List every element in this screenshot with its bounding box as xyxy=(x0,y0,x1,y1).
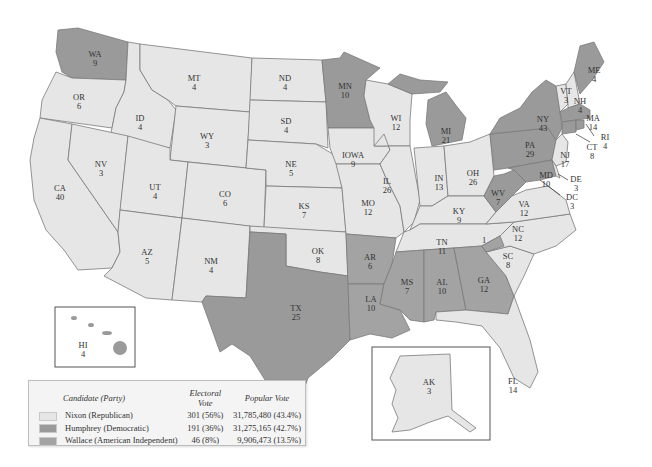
legend-electoral: 301 (56%) xyxy=(182,409,229,422)
legend-header-electoral: Electoral Vote xyxy=(182,387,229,409)
legend-row-nixon: Nixon (Republican) 301 (56%) 31,785,480 … xyxy=(35,409,305,422)
label-mi: MI21 xyxy=(441,126,452,145)
label-il: IL26 xyxy=(383,176,392,195)
legend-electoral: 191 (36%) xyxy=(182,422,229,435)
label-ct: CT8 xyxy=(587,142,599,161)
legend: Candidate (Party) Electoral Vote Popular… xyxy=(28,380,306,446)
leader-ct xyxy=(576,134,590,142)
label-al: AL10 xyxy=(436,277,447,296)
label-ma: MA14 xyxy=(586,113,601,132)
legend-candidate: Humphrey (Democratic) xyxy=(61,422,182,435)
legend-popular: 9,906,473 (13.5%) xyxy=(229,434,305,447)
legend-swatch-nixon xyxy=(39,412,57,421)
legend-candidate: Wallace (American Independent) xyxy=(61,434,182,447)
hi-island-kauai xyxy=(71,316,77,320)
legend-header-popular: Popular Vote xyxy=(229,387,305,409)
legend-candidate: Nixon (Republican) xyxy=(61,409,182,422)
legend-swatch-humphrey xyxy=(39,424,57,433)
state-ri xyxy=(576,120,584,130)
label-tn: TN11 xyxy=(436,237,447,256)
hi-island-big xyxy=(113,341,127,355)
legend-header-candidate: Candidate (Party) xyxy=(61,387,182,409)
hi-island-maui xyxy=(102,331,112,335)
label-nj: NJ17 xyxy=(560,150,570,169)
hawaii-inset xyxy=(55,307,135,367)
legend-row-wallace: Wallace (American Independent) 46 (8%) 9… xyxy=(35,434,305,447)
label-tx: TX25 xyxy=(290,303,301,322)
label-de: DE3 xyxy=(570,174,581,193)
label-in: IN13 xyxy=(435,173,444,192)
state-ct xyxy=(562,120,576,134)
legend-row-humphrey: Humphrey (Democratic) 191 (36%) 31,275,1… xyxy=(35,422,305,435)
label-md: MD10 xyxy=(539,170,553,189)
legend-popular: 31,275,165 (42.7%) xyxy=(229,422,305,435)
label-nc-faithless: 1 xyxy=(482,235,486,245)
label-fl: FL14 xyxy=(508,376,518,395)
legend-electoral: 46 (8%) xyxy=(182,434,229,447)
legend-swatch-wallace xyxy=(39,437,57,446)
label-ri: RI4 xyxy=(601,132,610,151)
legend-popular: 31,785,480 (43.4%) xyxy=(229,409,305,422)
legend-table: Candidate (Party) Electoral Vote Popular… xyxy=(35,387,305,447)
label-wi: WI12 xyxy=(391,113,402,132)
hi-island-oahu xyxy=(88,323,94,327)
